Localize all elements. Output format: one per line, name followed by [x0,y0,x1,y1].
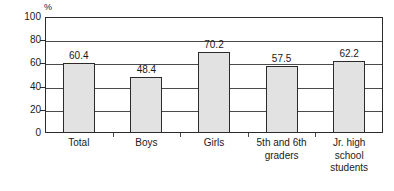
x-axis-category-label-line: 5th and 6th [248,137,316,150]
bar-value-label: 62.2 [339,48,358,59]
x-axis-category-label: Girls [180,137,248,150]
x-axis-category-label-line: Jr. high [315,137,383,150]
bar-slot: 60.4 [45,17,113,133]
x-axis-labels: TotalBoysGirls5th and 6thgradersJr. high… [45,137,383,189]
y-axis-tick-label: 60 [11,58,41,68]
x-axis-category-label: Total [45,137,113,150]
bar [130,77,162,133]
bars-layer: 60.448.470.257.562.2 [45,17,383,133]
y-axis-tick-label: 0 [11,128,41,138]
x-axis-category-label-line: students [315,162,383,175]
bar-chart: % 020406080100 60.448.470.257.562.2 Tota… [0,0,394,191]
x-axis-category-label: Jr. highschoolstudents [315,137,383,175]
x-axis-category-label-line: graders [248,150,316,163]
bar-slot: 62.2 [315,17,383,133]
x-axis-category-label: 5th and 6thgraders [248,137,316,162]
x-axis-category-label-line: school [315,150,383,163]
bar-value-label: 57.5 [272,53,291,64]
x-axis-category-label-line: Girls [180,137,248,150]
y-axis-unit-label: % [44,2,52,12]
x-axis-category-label-line: Boys [113,137,181,150]
bar [198,52,230,133]
bar-slot: 70.2 [180,17,248,133]
bar [333,61,365,133]
y-axis-tick-label: 100 [11,12,41,22]
bar [266,66,298,133]
bar-value-label: 60.4 [69,50,88,61]
bar-value-label: 48.4 [137,64,156,75]
bar-slot: 57.5 [248,17,316,133]
bar-slot: 48.4 [113,17,181,133]
bar-value-label: 70.2 [204,39,223,50]
y-axis-tick-label: 40 [11,82,41,92]
x-axis-category-label: Boys [113,137,181,150]
y-axis-tick-label: 20 [11,105,41,115]
y-axis-tick-label: 80 [11,35,41,45]
x-axis-category-label-line: Total [45,137,113,150]
bar [63,63,95,133]
